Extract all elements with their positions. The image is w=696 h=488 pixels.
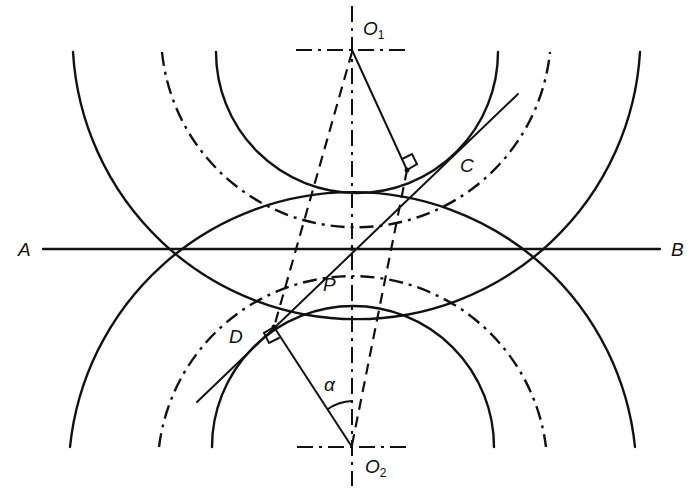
label-o2: O2 <box>365 456 387 480</box>
point-p <box>350 247 354 251</box>
label-a: A <box>17 239 31 260</box>
label-alpha: α <box>324 374 336 395</box>
point-c <box>405 168 410 173</box>
label-c: C <box>460 155 474 176</box>
radius-o1-c <box>352 50 407 170</box>
label-o1: O1 <box>363 18 385 42</box>
radius-d-o2 <box>274 327 352 447</box>
upper-root-circle <box>216 52 498 193</box>
dashed-o1-d <box>274 52 352 327</box>
angle-alpha-arc <box>328 401 352 409</box>
label-p: P <box>323 274 336 295</box>
upper-pitch-circle <box>162 52 550 227</box>
gear-interference-diagram: O1 O2 A B C D P α <box>0 0 696 488</box>
point-d <box>272 325 277 330</box>
label-b: B <box>671 239 684 260</box>
upper-addendum-circle <box>73 52 640 319</box>
label-d: D <box>229 326 243 347</box>
